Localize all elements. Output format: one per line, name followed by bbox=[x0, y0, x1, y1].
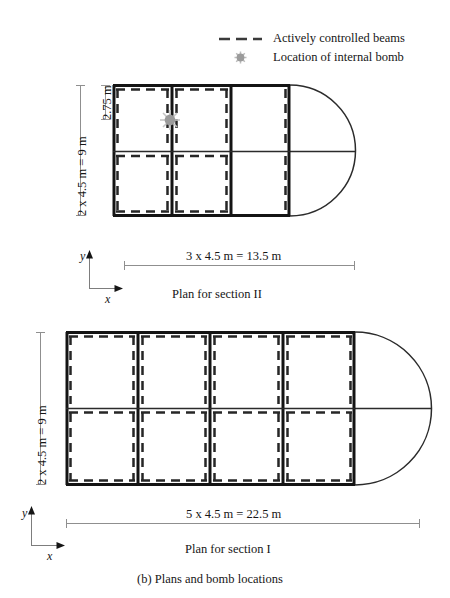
axis-label-y-section-I: y bbox=[22, 507, 27, 519]
axis-arrow-up-icon bbox=[86, 250, 93, 259]
horizontal-dimension-label-section-I: 5 x 4.5 m = 22.5 m bbox=[186, 508, 281, 521]
vertical-dimension-label-section-II: 2 x 4.5 m = 9 m bbox=[76, 136, 89, 216]
axis-label-x-section-I: x bbox=[47, 550, 52, 562]
horizontal-dimension-label-section-II: 3 x 4.5 m = 13.5 m bbox=[186, 250, 281, 263]
axis-arrow-right-icon bbox=[115, 285, 124, 292]
axis-arrow-right-icon bbox=[57, 542, 66, 549]
offset-dimension-label-section-II: 2.75 m bbox=[101, 85, 114, 120]
legend-bomb-starburst-icon bbox=[235, 52, 247, 64]
axis-arrow-up-icon bbox=[28, 506, 35, 515]
structural-frame bbox=[113, 85, 290, 216]
axis-label-x-section-II: x bbox=[105, 293, 110, 305]
axis-indicator bbox=[28, 506, 65, 549]
plan-title-section-II: Plan for section II bbox=[172, 288, 262, 301]
actively-controlled-beams-group bbox=[116, 89, 286, 212]
figure-caption: (b) Plans and bomb locations bbox=[137, 573, 283, 586]
structural-frame bbox=[66, 332, 355, 485]
axis-indicator bbox=[86, 250, 123, 292]
legend-label-actively-controlled-beams: Actively controlled beams bbox=[273, 32, 405, 45]
bomb-location-marker bbox=[160, 110, 180, 130]
vertical-dimension-label-section-I: 2 x 4.5 m = 9 m bbox=[36, 405, 49, 485]
figure-plans-and-bomb-locations: Actively controlled beams Location of in… bbox=[0, 0, 450, 598]
legend-label-bomb-location: Location of internal bomb bbox=[273, 51, 404, 64]
axis-label-y-section-II: y bbox=[80, 250, 85, 262]
round-end-arc bbox=[290, 85, 356, 216]
plan-title-section-I: Plan for section I bbox=[185, 543, 271, 556]
